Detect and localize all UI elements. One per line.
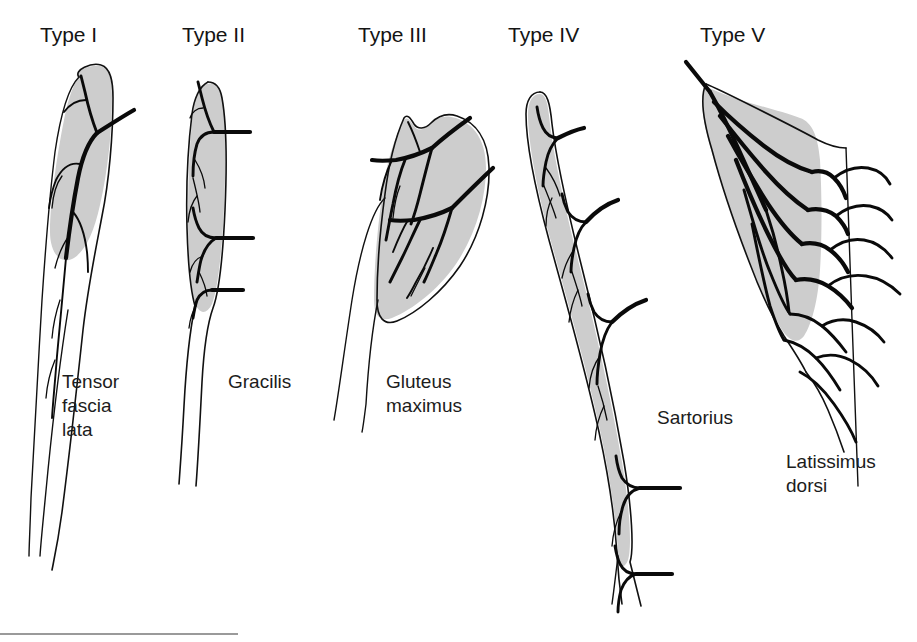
heading-type-i: Type I [40,23,97,46]
label-type-i-line-3: lata [62,419,93,440]
type-iv-pedicle-2 [586,200,618,222]
panel-type-ii: Type II [179,23,291,486]
type-v-segmental-2-outer [836,205,892,220]
panel-type-iv: Type IV [508,23,733,612]
panel-type-i: Type I [29,23,134,570]
label-type-v-line-1: Latissimus [786,451,876,472]
type-iv-muscle-fill [528,94,630,566]
heading-type-iv: Type IV [508,23,579,46]
type-v-dominant-pedicle [686,62,710,92]
type-iv-pedicle-1 [558,128,584,138]
label-type-i-line-2: fascia [62,395,112,416]
label-type-v-line-2: dorsi [786,475,827,496]
heading-type-v: Type V [700,23,765,46]
label-type-i-line-1: Tensor [62,371,120,392]
type-v-segmental-7 [800,372,856,442]
type-iii-tendon-right [362,300,378,432]
figure-canvas: Type I [0,0,917,642]
type-v-segmental-3-outer [830,239,892,258]
type-iv-tendon-inner [612,556,618,604]
type-ii-muscle-drawing [179,82,253,486]
type-v-segmental-1-outer [834,167,890,184]
muscle-vascular-classification-figure: Type I [0,0,917,642]
label-type-ii: Gracilis [228,371,291,392]
type-iv-muscle-drawing [526,92,680,612]
heading-type-iii: Type III [358,23,427,46]
type-v-muscle-fill [702,86,822,341]
label-type-iv: Sartorius [657,407,733,428]
label-type-iii-line-2: maximus [386,395,462,416]
type-i-muscle-drawing [29,64,134,570]
label-type-iii-line-1: Gluteus [386,371,451,392]
panel-type-iii: Type III [334,23,493,432]
type-iv-pedicle-5-down [618,574,636,612]
type-iv-pedicle-3 [612,300,646,322]
heading-type-ii: Type II [182,23,245,46]
